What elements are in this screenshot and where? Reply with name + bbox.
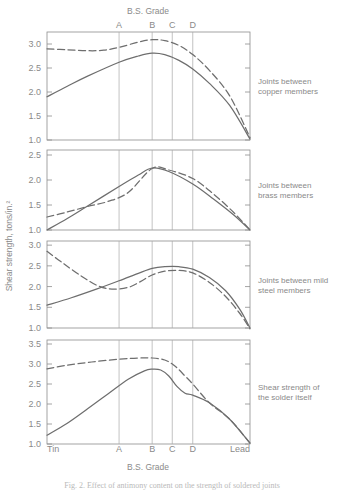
top-grade-label-D: D <box>190 20 197 30</box>
curve-solid-panel-4 <box>47 369 250 443</box>
curve-dashed-panel-1 <box>47 40 250 138</box>
y-tick-label: 1.5 <box>28 111 41 121</box>
bottom-grade-label-D: D <box>190 444 197 454</box>
curve-dashed-panel-2 <box>47 167 250 230</box>
svg-text:steel members: steel members <box>258 286 310 295</box>
y-tick-label: 1.5 <box>28 200 41 210</box>
panel-label-1: Joints betweencopper members <box>258 77 318 96</box>
bottom-grade-label-A: A <box>116 444 122 454</box>
panel-1: 3.02.52.01.51.0Joints betweencopper memb… <box>28 32 318 145</box>
curve-dashed-panel-3 <box>47 251 250 328</box>
axis-end-label-lead: Lead <box>230 444 250 454</box>
curve-solid-panel-1 <box>47 53 250 139</box>
panel-group: 3.02.52.01.51.0Joints betweencopper memb… <box>28 32 328 449</box>
svg-text:copper members: copper members <box>258 87 318 96</box>
y-tick-label: 2.0 <box>28 87 41 97</box>
y-axis-title: Shear strength, tons/in.² <box>4 200 14 291</box>
axis-end-label-tin: Tin <box>47 444 59 454</box>
figure-caption: Fig. 2. Effect of antimony content on th… <box>64 481 280 490</box>
svg-text:brass members: brass members <box>258 191 313 200</box>
y-tick-label: 2.5 <box>28 379 41 389</box>
panel-label-2: Joints betweenbrass members <box>258 181 313 200</box>
y-tick-label: 2.5 <box>28 150 41 160</box>
curve-solid-panel-3 <box>47 266 250 328</box>
top-grade-label-B: B <box>149 20 155 30</box>
y-tick-label: 1.0 <box>28 135 41 145</box>
y-tick-label: 3.0 <box>28 39 41 49</box>
bottom-grade-labels: ABCD <box>116 444 196 454</box>
curve-dashed-panel-4 <box>47 358 250 443</box>
y-tick-label: 2.5 <box>28 63 41 73</box>
y-tick-label: 3.0 <box>28 240 41 250</box>
y-tick-label: 1.0 <box>28 323 41 333</box>
panel-3: 3.02.52.01.51.0Joints between mildsteel … <box>28 240 328 333</box>
svg-text:Shear strength of: Shear strength of <box>258 383 320 392</box>
y-tick-label: 1.0 <box>28 439 41 449</box>
y-tick-label: 2.5 <box>28 261 41 271</box>
top-grade-labels: ABCD <box>116 20 196 30</box>
y-tick-label: 1.5 <box>28 419 41 429</box>
bottom-axis-title: B.S. Grade <box>127 462 169 472</box>
svg-text:Joints between: Joints between <box>258 181 311 190</box>
panel-4: 3.53.02.52.01.51.0Shear strength ofthe s… <box>28 339 320 449</box>
top-grade-label-A: A <box>116 20 122 30</box>
svg-text:Joints between mild: Joints between mild <box>258 276 328 285</box>
y-tick-label: 2.0 <box>28 282 41 292</box>
figure-container: B.S. Grade ABCD 3.02.52.01.51.0Joints be… <box>0 0 345 492</box>
plot-frame <box>47 340 250 444</box>
y-tick-label: 2.0 <box>28 399 41 409</box>
top-axis-title: B.S. Grade <box>127 6 169 16</box>
panel-2: 2.52.01.51.0Joints betweenbrass members <box>28 150 313 235</box>
svg-text:Joints between: Joints between <box>258 77 311 86</box>
panel-label-4: Shear strength ofthe solder itself <box>258 383 320 402</box>
y-tick-label: 2.0 <box>28 175 41 185</box>
plot-frame <box>47 32 250 140</box>
plot-frame <box>47 150 250 230</box>
y-tick-label: 1.0 <box>28 225 41 235</box>
y-tick-label: 1.5 <box>28 302 41 312</box>
y-tick-label: 3.0 <box>28 359 41 369</box>
top-grade-label-C: C <box>169 20 176 30</box>
svg-text:the solder itself: the solder itself <box>258 393 313 402</box>
y-tick-label: 3.5 <box>28 339 41 349</box>
solder-strength-figure: B.S. Grade ABCD 3.02.52.01.51.0Joints be… <box>0 0 345 492</box>
panel-label-3: Joints between mildsteel members <box>258 276 328 295</box>
bottom-grade-label-C: C <box>169 444 176 454</box>
bottom-grade-label-B: B <box>149 444 155 454</box>
